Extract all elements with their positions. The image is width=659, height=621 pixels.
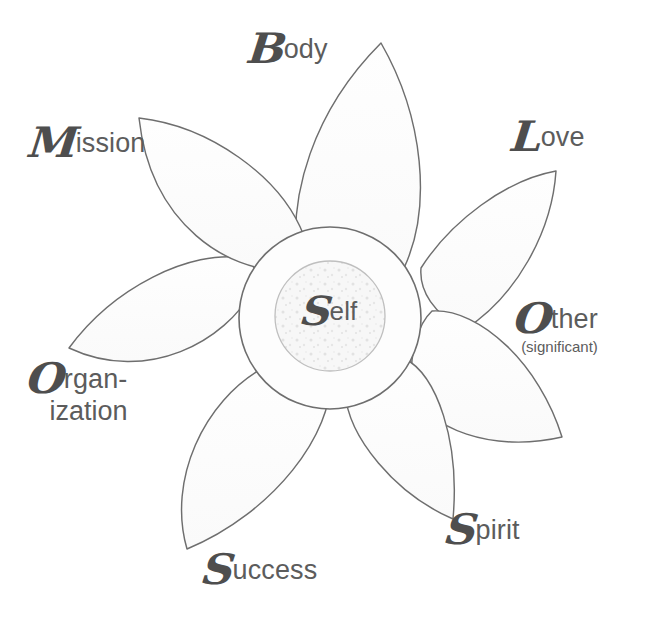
success-label-rest: uccess [233, 555, 318, 585]
mission-label-rest: ission [76, 128, 146, 158]
spirit-label-rest: pirit [476, 515, 520, 545]
petal-label-body[interactable]: Body [249, 28, 328, 71]
mission-script-initial: M [27, 122, 80, 165]
other-script-initial: O [512, 298, 555, 341]
success-script-initial: S [201, 549, 237, 592]
spirit-script-initial: S [444, 509, 480, 552]
love-script-initial: L [510, 116, 545, 159]
organization-label-rest: rgan- [64, 364, 128, 394]
organization-script-initial: O [25, 358, 68, 401]
diagram-canvas: Self Body Love Other (significant) Spiri… [0, 0, 659, 621]
self-label-rest: elf [330, 296, 358, 326]
self-script-initial: S [299, 291, 333, 332]
petal-label-love[interactable]: Love [512, 116, 585, 159]
petal-label-spirit[interactable]: Spirit [446, 509, 520, 552]
petal-label-organization[interactable]: Organ- ization [28, 358, 127, 425]
petal-label-success[interactable]: Success [203, 549, 317, 592]
petal-label-other[interactable]: Other (significant) [515, 298, 598, 354]
love-label-rest: ove [541, 122, 585, 152]
other-label-rest: ther [551, 304, 598, 334]
body-label-rest: ody [284, 34, 328, 64]
petal-label-mission[interactable]: Mission [30, 122, 146, 165]
body-script-initial: B [247, 28, 289, 71]
